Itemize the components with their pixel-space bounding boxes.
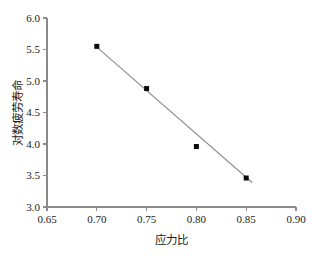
fatigue-life-scatter-chart: 3.03.54.04.55.05.56.00.650.700.750.800.8… <box>0 0 312 256</box>
data-point-marker <box>194 144 199 149</box>
y-tick-label: 4.5 <box>26 106 40 118</box>
data-point-marker <box>94 44 99 49</box>
x-axis-title: 应力比 <box>155 233 188 246</box>
y-tick-label: 4.0 <box>26 138 40 150</box>
y-tick-label: 5.0 <box>26 75 40 87</box>
y-tick-label: 5.5 <box>26 43 40 55</box>
fit-line <box>95 45 252 182</box>
y-tick-label: 3.0 <box>26 201 40 213</box>
x-tick-label: 0.80 <box>187 213 207 225</box>
y-tick-label: 3.5 <box>26 169 40 181</box>
x-tick-label: 0.65 <box>37 213 57 225</box>
y-tick-label: 6.0 <box>26 12 40 24</box>
data-point-marker <box>244 176 249 181</box>
plot-area: 3.03.54.04.55.05.56.00.650.700.750.800.8… <box>0 0 312 256</box>
x-tick-label: 0.75 <box>137 213 157 225</box>
x-tick-label: 0.90 <box>286 213 306 225</box>
y-axis-title: 对数疲劳寿命 <box>11 79 24 146</box>
x-tick-label: 0.70 <box>87 213 107 225</box>
x-tick-label: 0.85 <box>237 213 257 225</box>
data-point-marker <box>144 86 149 91</box>
